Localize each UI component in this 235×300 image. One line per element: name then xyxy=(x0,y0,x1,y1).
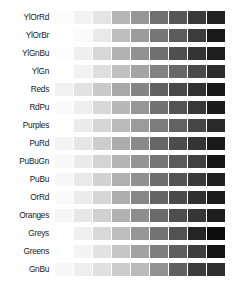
colormap-swatch xyxy=(55,173,74,186)
colormap-swatch xyxy=(112,209,131,222)
colormap-swatch xyxy=(93,227,112,240)
colormap-swatch xyxy=(55,155,74,168)
colormap-swatch xyxy=(74,155,93,168)
colormap-swatch xyxy=(169,65,188,78)
colormap-row: PuRd xyxy=(0,137,235,150)
colormap-swatch xyxy=(150,245,169,258)
colormap-swatch xyxy=(169,11,188,24)
colormap-swatch xyxy=(55,227,74,240)
colormap-swatch xyxy=(131,47,150,60)
colormap-swatch xyxy=(207,101,225,114)
colormap-swatch xyxy=(169,191,188,204)
colormap-swatch-strip xyxy=(55,227,225,240)
colormap-swatch xyxy=(188,65,207,78)
colormap-swatch xyxy=(131,65,150,78)
colormap-label: Greens xyxy=(4,245,49,258)
colormap-swatch xyxy=(150,29,169,42)
colormap-swatch xyxy=(55,245,74,258)
colormap-swatch xyxy=(55,65,74,78)
colormap-swatch xyxy=(74,101,93,114)
colormap-swatch xyxy=(207,263,225,276)
colormap-label: YlGn xyxy=(4,65,49,78)
colormap-swatch xyxy=(112,101,131,114)
colormap-swatch xyxy=(93,101,112,114)
colormap-row: Greys xyxy=(0,227,235,240)
colormap-swatch xyxy=(131,155,150,168)
colormap-swatch xyxy=(55,101,74,114)
colormap-swatch xyxy=(150,65,169,78)
colormap-label: YlOrBr xyxy=(4,29,49,42)
colormap-row: Purples xyxy=(0,119,235,132)
colormap-swatch xyxy=(150,119,169,132)
colormap-swatch xyxy=(93,29,112,42)
colormap-swatch-strip xyxy=(55,263,225,276)
colormap-swatch xyxy=(74,47,93,60)
colormap-swatch xyxy=(55,83,74,96)
colormap-swatch xyxy=(55,263,74,276)
colormap-swatch xyxy=(131,119,150,132)
colormap-swatch xyxy=(169,173,188,186)
colormap-swatch xyxy=(169,29,188,42)
colormap-swatch xyxy=(188,47,207,60)
colormap-swatch xyxy=(93,137,112,150)
colormap-swatch xyxy=(112,65,131,78)
colormap-row: PuBu xyxy=(0,173,235,186)
colormap-swatch xyxy=(150,227,169,240)
colormap-swatch xyxy=(131,83,150,96)
colormap-swatch xyxy=(169,137,188,150)
colormap-swatch xyxy=(207,155,225,168)
colormap-swatch xyxy=(207,47,225,60)
colormap-swatch xyxy=(74,137,93,150)
colormap-swatch xyxy=(74,119,93,132)
colormap-swatch xyxy=(131,263,150,276)
colormap-swatch xyxy=(150,11,169,24)
colormap-swatch xyxy=(188,11,207,24)
colormap-swatch-strip xyxy=(55,209,225,222)
colormap-swatch xyxy=(169,47,188,60)
colormap-swatch xyxy=(207,137,225,150)
colormap-row: YlOrRd xyxy=(0,11,235,24)
colormap-swatch xyxy=(93,119,112,132)
colormap-swatch xyxy=(112,155,131,168)
colormap-swatch xyxy=(74,173,93,186)
colormap-swatch xyxy=(207,119,225,132)
colormap-swatch xyxy=(93,173,112,186)
colormap-swatch xyxy=(74,227,93,240)
colormap-label: GnBu xyxy=(4,263,49,276)
colormap-swatch xyxy=(150,47,169,60)
colormap-swatch xyxy=(188,155,207,168)
colormap-swatch xyxy=(188,263,207,276)
colormap-swatch xyxy=(131,173,150,186)
colormap-label: RdPu xyxy=(4,101,49,114)
colormap-swatch-strip xyxy=(55,83,225,96)
colormap-swatch xyxy=(112,191,131,204)
colormap-swatch-strip xyxy=(55,245,225,258)
colormap-swatch xyxy=(112,173,131,186)
colormap-swatch xyxy=(93,47,112,60)
colormap-swatch xyxy=(93,83,112,96)
colormap-swatch xyxy=(150,191,169,204)
colormap-swatch-strip xyxy=(55,11,225,24)
colormap-swatch xyxy=(207,11,225,24)
colormap-swatch-strip xyxy=(55,155,225,168)
colormap-swatch xyxy=(131,101,150,114)
colormap-swatch xyxy=(207,65,225,78)
colormap-label: Reds xyxy=(4,83,49,96)
colormap-swatch xyxy=(188,245,207,258)
colormap-swatch xyxy=(112,263,131,276)
colormap-swatch xyxy=(112,47,131,60)
colormap-swatch xyxy=(169,155,188,168)
colormap-swatch xyxy=(169,101,188,114)
colormap-swatch-strip xyxy=(55,191,225,204)
colormap-swatch xyxy=(169,227,188,240)
colormap-swatch xyxy=(150,173,169,186)
colormap-label: OrRd xyxy=(4,191,49,204)
colormap-swatch xyxy=(74,209,93,222)
colormap-swatch xyxy=(131,209,150,222)
colormap-swatch-strip xyxy=(55,29,225,42)
colormap-swatch xyxy=(207,245,225,258)
colormap-swatch xyxy=(188,191,207,204)
colormap-swatch xyxy=(112,29,131,42)
colormap-row: Greens xyxy=(0,245,235,258)
colormap-swatch xyxy=(93,263,112,276)
